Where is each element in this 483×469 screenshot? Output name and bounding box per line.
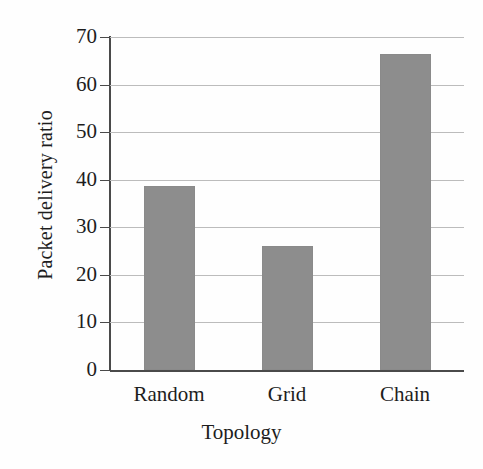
y-axis-tick xyxy=(100,37,109,38)
y-axis-tick xyxy=(100,322,109,323)
y-axis-tick-label: 20 xyxy=(51,264,97,285)
bar-random xyxy=(144,186,195,370)
y-axis-tick-label: 40 xyxy=(51,169,97,190)
y-axis-tick-label: 50 xyxy=(51,121,97,142)
y-axis-tick xyxy=(100,85,109,86)
bar-grid xyxy=(262,246,313,370)
bar-chart-figure: Packet delivery ratio 010203040506070 Ra… xyxy=(0,0,483,469)
bar-chain xyxy=(380,54,431,370)
gridline xyxy=(110,37,464,38)
y-axis-tick xyxy=(100,275,109,276)
y-axis-tick-label: 0 xyxy=(51,359,97,380)
y-axis-tick-label: 70 xyxy=(51,26,97,47)
x-axis-tick-label-chain: Chain xyxy=(335,382,475,406)
x-axis-title: Topology xyxy=(0,420,483,445)
y-axis-tick xyxy=(100,227,109,228)
y-axis-tick-label: 10 xyxy=(51,311,97,332)
y-axis-tick-label: 30 xyxy=(51,216,97,237)
y-axis-tick xyxy=(100,180,109,181)
x-axis-baseline xyxy=(110,370,464,372)
y-axis-tick xyxy=(100,132,109,133)
y-axis-tick-label: 60 xyxy=(51,74,97,95)
y-axis-tick xyxy=(100,370,109,371)
plot-area xyxy=(110,37,464,370)
